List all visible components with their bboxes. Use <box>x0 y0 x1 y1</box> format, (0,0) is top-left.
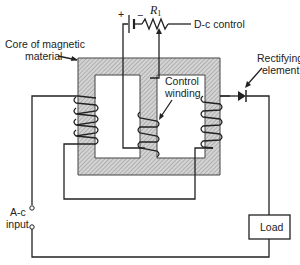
svg-text:Rectifying: Rectifying <box>257 52 300 64</box>
magnetic-amplifier-diagram: Core of magnetic material + − R1 D-c con… <box>0 0 300 265</box>
svg-text:−: − <box>137 9 143 21</box>
svg-text:material: material <box>25 50 62 62</box>
core-label: Core of magnetic material <box>5 38 85 62</box>
ac-input-terminals: A-c input <box>6 206 34 230</box>
rectifier-label: Rectifying element <box>245 52 300 88</box>
svg-text:Control: Control <box>165 75 199 87</box>
control-winding-label: Control winding <box>159 75 201 120</box>
rectifier-diode-icon <box>238 90 246 102</box>
svg-text:element: element <box>262 64 299 76</box>
svg-text:A-c: A-c <box>10 206 26 218</box>
battery-icon: + − <box>118 8 143 33</box>
resistor-r1-icon: R1 <box>142 3 168 29</box>
svg-text:+: + <box>118 8 124 20</box>
load-box: Load <box>249 215 290 239</box>
svg-text:R1: R1 <box>149 3 161 18</box>
svg-text:Core of magnetic: Core of magnetic <box>5 38 85 50</box>
svg-text:input: input <box>6 218 29 230</box>
ac-input-wire-top <box>32 96 78 205</box>
svg-text:D-c control: D-c control <box>194 18 245 30</box>
diode-to-load-wire <box>246 96 269 215</box>
svg-text:winding: winding <box>164 87 201 99</box>
return-wire <box>32 229 269 257</box>
svg-text:Load: Load <box>260 221 284 233</box>
